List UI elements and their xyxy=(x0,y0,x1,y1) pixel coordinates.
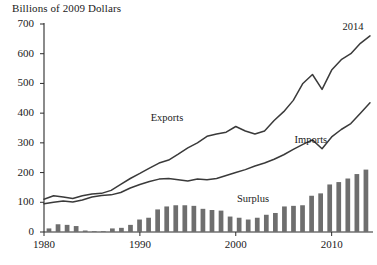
x-tick-label: 1990 xyxy=(120,239,160,250)
y-tick-label: 700 xyxy=(4,18,34,29)
y-tick-label: 100 xyxy=(4,196,34,207)
surplus-bar xyxy=(291,206,296,232)
surplus-bar xyxy=(246,220,251,232)
y-tick-label: 500 xyxy=(4,77,34,88)
surplus-bar xyxy=(182,205,187,232)
x-tick-label: 1980 xyxy=(24,239,64,250)
surplus-bar xyxy=(327,184,332,232)
series-line-imports xyxy=(44,103,370,204)
surplus-bar xyxy=(137,220,142,232)
annotation-2014: 2014 xyxy=(342,21,363,32)
annotation-exports: Exports xyxy=(151,112,184,123)
surplus-bar xyxy=(155,209,160,232)
y-tick-label: 600 xyxy=(4,48,34,59)
surplus-bar xyxy=(83,231,88,232)
x-tick-label: 2000 xyxy=(216,239,256,250)
surplus-bar xyxy=(318,193,323,232)
surplus-bar xyxy=(355,174,360,232)
surplus-bar xyxy=(146,218,151,232)
y-tick-label: 200 xyxy=(4,167,34,178)
surplus-bar xyxy=(264,215,269,232)
surplus-bar xyxy=(219,211,224,232)
surplus-bar xyxy=(237,218,242,232)
plot-area xyxy=(0,0,377,265)
annotation-imports: Imports xyxy=(294,134,327,145)
surplus-bar xyxy=(201,209,206,232)
surplus-bar xyxy=(228,217,233,232)
surplus-bar xyxy=(101,231,106,232)
surplus-bar xyxy=(192,206,197,232)
annotation-surplus: Surplus xyxy=(237,193,269,204)
surplus-bar xyxy=(336,182,341,232)
surplus-bar xyxy=(164,206,169,232)
surplus-bar xyxy=(364,170,369,232)
surplus-bar xyxy=(110,228,115,232)
surplus-bar xyxy=(47,228,52,232)
surplus-bar xyxy=(74,226,79,232)
surplus-bar xyxy=(273,213,278,232)
surplus-bar xyxy=(173,205,178,232)
surplus-bar xyxy=(119,228,124,232)
y-tick-label: 300 xyxy=(4,137,34,148)
surplus-bar xyxy=(92,231,97,232)
surplus-bar xyxy=(309,196,314,232)
surplus-bar xyxy=(255,218,260,232)
surplus-bar xyxy=(128,225,133,232)
surplus-bar xyxy=(282,206,287,232)
y-tick-label: 400 xyxy=(4,107,34,118)
surplus-bar xyxy=(300,205,305,232)
surplus-bar xyxy=(210,210,215,232)
trade-chart: Billions of 2009 Dollars 010020030040050… xyxy=(0,0,377,265)
surplus-bar xyxy=(65,225,70,232)
series-line-exports xyxy=(44,36,370,199)
y-tick-label: 0 xyxy=(4,226,34,237)
surplus-bar xyxy=(56,224,61,232)
surplus-bar xyxy=(345,179,350,232)
x-tick-label: 2010 xyxy=(312,239,352,250)
